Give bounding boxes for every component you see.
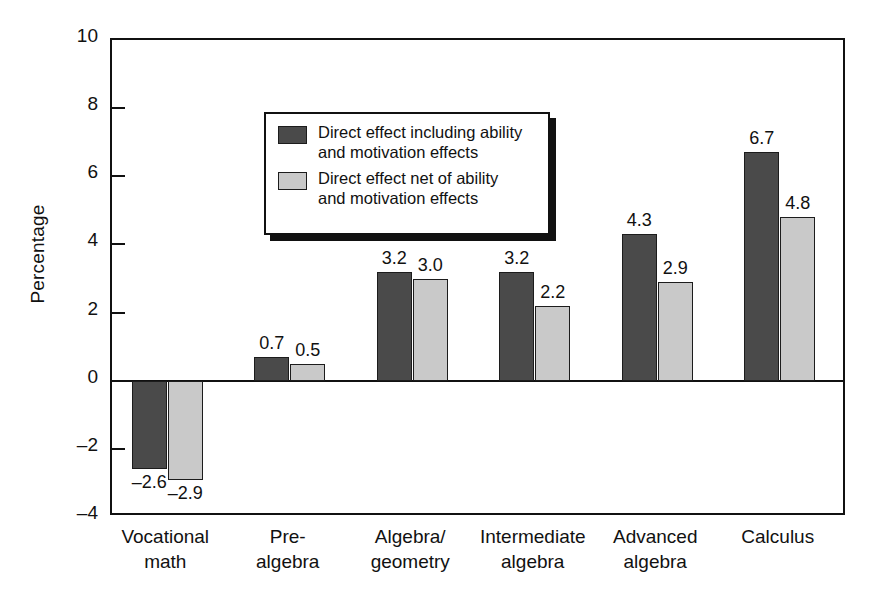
bar <box>168 381 203 480</box>
bar-value-label: 4.3 <box>609 210 669 231</box>
category-label-line: math <box>144 551 186 572</box>
y-tick-label: 4 <box>28 229 98 251</box>
y-tick-mark <box>112 448 125 450</box>
category-label-line: algebra <box>256 551 319 572</box>
bar-value-label: 2.9 <box>645 258 705 279</box>
bar-value-label: 2.2 <box>523 282 583 303</box>
bar-value-label: 3.2 <box>487 248 547 269</box>
category-label-line: Calculus <box>741 526 814 547</box>
zero-baseline <box>112 380 843 382</box>
y-tick-label: –2 <box>28 434 98 456</box>
bar <box>535 306 570 381</box>
category-label-line: Algebra/ <box>375 526 446 547</box>
chart-figure: Percentage 1086420–2–4 –2.60.73.23.24.36… <box>0 0 882 612</box>
bar-value-label: 6.7 <box>732 128 792 149</box>
bar <box>744 152 779 380</box>
category-label: Calculus <box>703 524 853 549</box>
legend-item: Direct effect including abilityand motiv… <box>278 123 538 162</box>
bar <box>413 279 448 381</box>
y-tick-label: 0 <box>28 366 98 388</box>
y-tick-mark <box>112 107 125 109</box>
light-swatch-icon <box>278 172 307 190</box>
y-tick-label: 10 <box>28 25 98 47</box>
legend-item-label: Direct effect including abilityand motiv… <box>318 123 522 162</box>
y-tick-label: –4 <box>28 502 98 524</box>
bar <box>780 217 815 381</box>
bar <box>622 234 657 381</box>
bar <box>132 381 167 470</box>
bar-value-label: 3.0 <box>400 255 460 276</box>
bar-value-label: 4.8 <box>768 193 828 214</box>
chart-legend: Direct effect including abilityand motiv… <box>264 112 550 235</box>
y-tick-mark <box>112 243 125 245</box>
plot-area: –2.60.73.23.24.36.7–2.90.53.02.22.94.8 D… <box>110 38 845 515</box>
bar <box>658 282 693 381</box>
bar-value-label: 0.5 <box>278 340 338 361</box>
legend-item-label: Direct effect net of abilityand motivati… <box>318 169 498 208</box>
category-label-line: Pre- <box>270 526 306 547</box>
bar <box>290 364 325 381</box>
category-label-line: algebra <box>501 551 564 572</box>
y-tick-mark <box>112 175 125 177</box>
dark-swatch-icon <box>278 126 307 144</box>
category-label-line: Advanced <box>613 526 698 547</box>
y-tick-mark <box>112 312 125 314</box>
category-label-line: geometry <box>371 551 450 572</box>
y-tick-label: 6 <box>28 161 98 183</box>
y-tick-label: 8 <box>28 93 98 115</box>
bar-value-label: –2.9 <box>155 483 215 504</box>
category-label-line: algebra <box>624 551 687 572</box>
bar <box>377 272 412 381</box>
y-tick-label: 2 <box>28 298 98 320</box>
legend-item: Direct effect net of abilityand motivati… <box>278 169 538 208</box>
category-label-line: Intermediate <box>480 526 586 547</box>
category-label-line: Vocational <box>121 526 209 547</box>
y-axis-title: Percentage <box>27 154 49 354</box>
